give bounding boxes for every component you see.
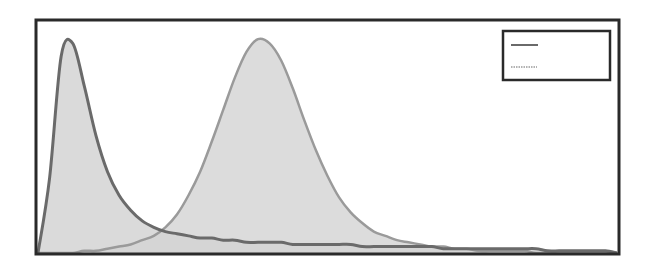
density-chart: [0, 0, 645, 267]
legend: [503, 31, 610, 80]
legend-box: [503, 31, 610, 80]
